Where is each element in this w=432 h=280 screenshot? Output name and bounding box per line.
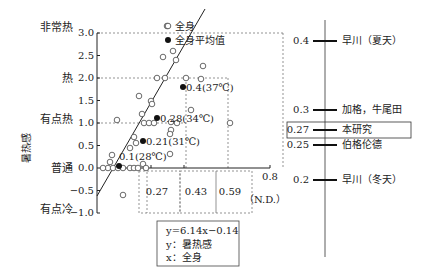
svg-text:有点冷: 有点冷	[40, 202, 73, 216]
svg-text:0.1(28℃): 0.1(28℃)	[119, 151, 167, 162]
scatter-open-points	[100, 23, 233, 198]
legend-open-circle-icon	[165, 23, 171, 29]
svg-text:全身平均值: 全身平均值	[175, 34, 225, 46]
svg-text:y：暑热感: y：暑热感	[165, 238, 212, 250]
svg-text:x：全身: x：全身	[166, 251, 202, 263]
svg-text:0.21(31℃): 0.21(31℃)	[146, 136, 200, 147]
y-axis	[97, 33, 100, 213]
svg-text:2.5: 2.5	[78, 50, 94, 61]
y-tick-labels: 3.0 2.5 2.0 1.5 1.0 0.5 0.0 −0.5 −1.0	[70, 27, 94, 218]
svg-text:热: 热	[62, 72, 73, 85]
svg-text:0.3: 0.3	[293, 104, 309, 115]
svg-text:0.43: 0.43	[185, 186, 207, 197]
legend-filled-circle-icon	[165, 37, 171, 43]
svg-text:本研究: 本研究	[342, 123, 372, 135]
y-category-labels: 非常热 热 有点热 普通 有点冷	[40, 21, 73, 216]
svg-text:0.27: 0.27	[146, 186, 168, 197]
svg-text:0.2: 0.2	[293, 174, 309, 185]
point-labels: 0.1(28℃) 0.21(31℃) 0.28(34℃) 0.4(37℃)	[119, 82, 234, 162]
chart-canvas: 3.0 2.5 2.0 1.5 1.0 0.5 0.0 −0.5 −1.0 非常…	[0, 0, 432, 280]
svg-text:普通: 普通	[51, 161, 73, 175]
y-axis-title: 暑热感	[20, 133, 32, 163]
svg-text:−1.0: −1.0	[70, 207, 94, 218]
svg-text:y=6.14x−0.14: y=6.14x−0.14	[165, 225, 239, 236]
svg-text:非常热: 非常热	[40, 21, 73, 34]
svg-text:加格，牛尾田: 加格，牛尾田	[342, 103, 402, 115]
svg-text:2.0: 2.0	[78, 72, 94, 83]
svg-text:（N.D.）: （N.D.）	[244, 194, 286, 205]
svg-text:早川（冬天）: 早川（冬天）	[342, 173, 402, 185]
svg-text:全身: 全身	[175, 20, 195, 32]
svg-text:0.25: 0.25	[287, 139, 309, 150]
equation-box: y=6.14x−0.14 y：暑热感 x：全身	[157, 221, 239, 266]
svg-text:−0.5: −0.5	[70, 185, 94, 196]
svg-text:有点热: 有点热	[40, 112, 73, 126]
svg-text:3.0: 3.0	[78, 27, 94, 38]
svg-text:0.4(37℃): 0.4(37℃)	[186, 82, 234, 93]
svg-text:1.0: 1.0	[78, 117, 94, 128]
svg-text:早川（夏天）: 早川（夏天）	[342, 35, 402, 46]
x-tick-label: 0.8	[262, 171, 278, 182]
svg-text:0.28(34℃): 0.28(34℃)	[160, 113, 214, 124]
svg-text:0.59: 0.59	[219, 186, 241, 197]
comparison-scale: 0.4 早川（夏天） 0.3 加格，牛尾田 0.27 本研究 0.25 伯格伦德…	[287, 20, 411, 257]
svg-text:0.5: 0.5	[78, 140, 94, 151]
svg-text:0.27: 0.27	[287, 124, 309, 135]
svg-text:伯格伦德: 伯格伦德	[342, 138, 382, 150]
svg-text:1.5: 1.5	[78, 95, 94, 106]
svg-text:0.0: 0.0	[78, 162, 94, 173]
svg-text:0.4: 0.4	[293, 35, 309, 46]
